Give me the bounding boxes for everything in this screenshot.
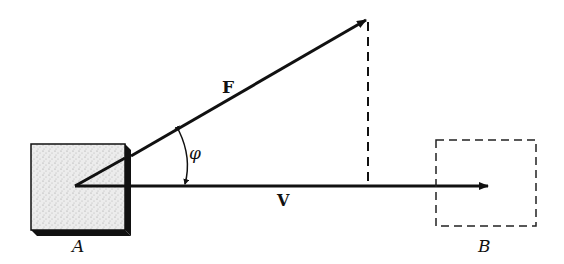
work-diagram: F V φ A B [0, 0, 564, 264]
block-b-label: B [477, 236, 491, 256]
block-a-label: A [70, 236, 84, 256]
block-a [31, 144, 131, 236]
velocity-label: V [276, 191, 290, 210]
force-vector [131, 20, 366, 156]
angle-label: φ [189, 143, 201, 163]
force-label: F [222, 77, 234, 97]
diagram-canvas: F V φ A B [0, 0, 564, 264]
block-b [436, 140, 536, 226]
angle-arc [179, 131, 187, 184]
